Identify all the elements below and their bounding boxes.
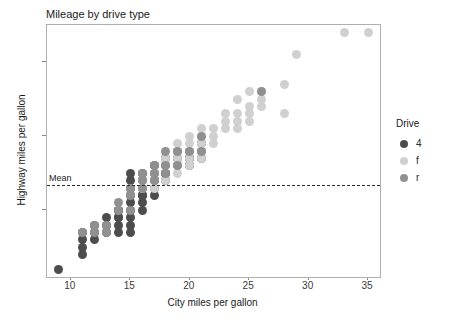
data-point [209,132,218,141]
legend-item[interactable]: r [396,169,422,186]
x-axis-label: City miles per gallon [46,297,379,308]
data-point [138,169,147,178]
x-tick-label: 35 [362,280,373,291]
data-point [161,161,170,170]
legend-swatch-icon [396,153,411,168]
data-point [209,124,218,133]
data-point [90,221,99,230]
data-point [161,169,170,178]
x-tick-label: 30 [302,280,313,291]
data-point [185,132,194,141]
data-point [197,147,206,156]
data-point [221,109,230,118]
legend-item[interactable]: 4 [396,135,422,152]
data-point [126,169,135,178]
data-point [257,87,266,96]
legend-item-label: 4 [416,138,422,149]
data-point [173,169,182,178]
data-point [54,265,63,274]
plot-panel: Mean [46,24,381,278]
data-point [245,117,254,126]
data-point [173,161,182,170]
legend-item-label: r [416,172,419,183]
data-point [102,221,111,230]
data-point [245,102,254,111]
y-axis-label: Highway miles per gallon [16,24,27,276]
legend-item[interactable]: f [396,152,422,169]
data-point [185,147,194,156]
x-tick-label: 20 [183,280,194,291]
data-point [114,198,123,207]
x-tick-label: 10 [64,280,75,291]
data-point [364,28,373,37]
chart-root: Mileage by drive type Highway miles per … [0,0,462,322]
data-point [233,117,242,126]
mean-line [47,185,380,186]
data-point [280,109,289,118]
x-tick-label: 15 [124,280,135,291]
chart-title: Mileage by drive type [46,8,150,20]
data-point [280,80,289,89]
x-tick-label: 25 [243,280,254,291]
data-point [138,206,147,215]
data-point [173,147,182,156]
legend-swatch-icon [396,136,411,151]
legend-swatch-icon [396,170,411,185]
data-point [150,161,159,170]
legend-item-label: f [416,155,419,166]
data-point [161,147,170,156]
legend-entries: 4fr [396,135,422,186]
legend: Drive 4fr [396,118,422,186]
data-point [114,206,123,215]
data-point [78,243,87,252]
data-point [233,95,242,104]
data-point [150,169,159,178]
data-point [245,87,254,96]
data-point [340,28,349,37]
data-point [197,132,206,141]
data-point [292,50,301,59]
data-point [221,117,230,126]
mean-label: Mean [49,173,72,183]
data-point [126,206,135,215]
legend-title: Drive [396,118,422,129]
